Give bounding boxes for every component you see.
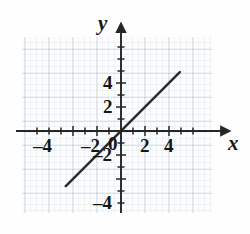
coordinate-plane-svg: [0, 0, 250, 234]
y-tick-label-neg4: –4: [93, 193, 112, 212]
x-axis-label: x: [228, 133, 239, 154]
x-tick-label-pos2: 2: [140, 136, 150, 155]
y-tick-label-pos2: 2: [103, 97, 113, 116]
x-tick-label-pos4: 4: [164, 136, 174, 155]
y-tick-label-neg2: –2: [93, 145, 112, 164]
y-tick-label-pos4: 4: [103, 73, 113, 92]
x-tick-label-neg4: –4: [33, 136, 52, 155]
y-axis-label: y: [98, 13, 107, 34]
graph-figure: y x –4 –2 2 4 0 4 2 –2 –4: [0, 0, 250, 234]
graph-paper-grid: [22, 37, 212, 213]
